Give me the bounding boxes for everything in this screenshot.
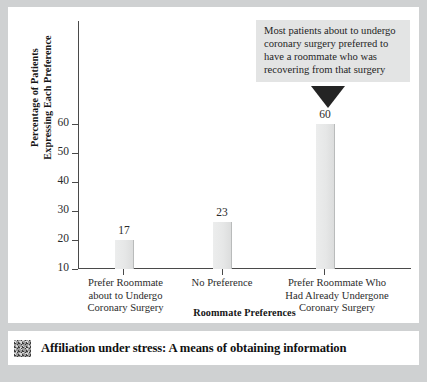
- y-axis-tick-60: 60: [72, 124, 78, 125]
- annotation-line: coronary surgery preferred to: [264, 38, 404, 51]
- x-axis-title: Roommate Preferences: [78, 307, 411, 318]
- caption-title: Affiliation under stress: A means of obt…: [41, 341, 346, 356]
- category-label-line: No Preference: [174, 277, 270, 290]
- bar-value-label-1: 23: [216, 206, 228, 218]
- y-axis-title-line: Percentage of Patients: [29, 13, 42, 183]
- caption-bar: Affiliation under stress: A means of obt…: [8, 331, 419, 365]
- annotation-line: have a roommate who was: [264, 51, 404, 64]
- y-axis-tick-50: 50: [72, 153, 78, 154]
- y-axis-tick-label-60: 60: [58, 116, 70, 128]
- y-axis-line: [78, 21, 79, 269]
- bar-no-preference[interactable]: 23: [213, 222, 232, 269]
- annotation-callout: Most patients about to undergo coronary …: [256, 20, 410, 82]
- category-label-line: Prefer Roommate: [68, 277, 183, 290]
- y-axis-tick-label-20: 20: [58, 232, 70, 244]
- category-label-line: Prefer Roommate Who: [272, 277, 402, 290]
- y-axis-tick-label-30: 30: [58, 203, 70, 215]
- y-axis-tick-label-10: 10: [58, 261, 70, 273]
- category-label-line: about to Undergo: [68, 290, 183, 303]
- category-label-line: Had Already Undergone: [272, 290, 402, 303]
- y-axis-tick-20: 20: [72, 240, 78, 241]
- bar-prefer-roommate-already-undergone[interactable]: 60: [316, 124, 335, 269]
- halftone-texture-icon: [14, 340, 31, 357]
- bar-value-label-2: 60: [319, 108, 331, 120]
- x-axis-tick-1: [222, 269, 223, 275]
- bar-value-label-0: 17: [118, 224, 130, 236]
- x-axis-category-label-1: No Preference: [174, 277, 270, 290]
- y-axis-tick-40: 40: [72, 182, 78, 183]
- y-axis-tick-10: 10: [72, 269, 78, 270]
- y-axis-tick-label-40: 40: [58, 174, 70, 186]
- annotation-line: recovering from that surgery: [264, 64, 404, 77]
- chart-panel: 10 20 30 40 50 60 17: [8, 7, 419, 323]
- y-axis-tick-label-50: 50: [58, 145, 70, 157]
- x-axis-tick-0: [123, 269, 124, 275]
- annotation-line: Most patients about to undergo: [264, 25, 404, 38]
- y-axis-tick-30: 30: [72, 211, 78, 212]
- x-axis-tick-2: [324, 269, 325, 275]
- y-axis-title-line: Expressing Each Preference: [41, 13, 54, 183]
- y-axis-title: Percentage of Patients Expressing Each P…: [29, 13, 54, 183]
- bar-chart-plot: 10 20 30 40 50 60 17: [8, 7, 419, 323]
- bar-prefer-roommate-about-to-undergo[interactable]: 17: [115, 240, 134, 269]
- annotation-arrow-down-icon: [311, 86, 345, 108]
- figure-page: 10 20 30 40 50 60 17: [0, 0, 427, 382]
